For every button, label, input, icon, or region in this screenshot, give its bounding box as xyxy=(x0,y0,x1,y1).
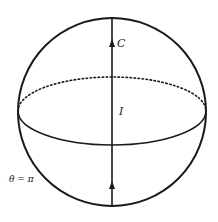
sphere-diagram xyxy=(0,0,218,222)
arrow-up-icon xyxy=(109,181,115,189)
curve-label-c: C xyxy=(117,38,125,49)
angle-label-theta: θ = π xyxy=(9,175,34,184)
current-label-i: I xyxy=(119,106,123,117)
arrow-up-icon xyxy=(109,39,115,47)
